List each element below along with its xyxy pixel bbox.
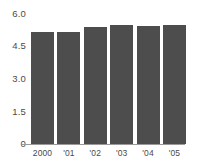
x-axis-tick-label: '05 [163, 148, 186, 158]
plot-area [31, 8, 186, 144]
x-axis-tick-label: '01 [57, 148, 80, 158]
bar-01 [57, 32, 80, 144]
bar-chart: 6.0 4.5 3.0 1.5 0 [0, 0, 203, 165]
y-axis-tick-label: 1.5 [0, 107, 26, 117]
x-axis-line [22, 144, 185, 145]
bar-slot [110, 8, 133, 144]
bar-02 [84, 27, 107, 144]
bar-slot [163, 8, 186, 144]
y-axis-tick-label: 6.0 [0, 9, 26, 19]
bar-slot [84, 8, 107, 144]
y-axis-tick-label: 4.5 [0, 41, 26, 51]
bar-slot [31, 8, 54, 144]
bar-2000 [31, 32, 54, 144]
x-axis-tick-label: '02 [84, 148, 107, 158]
bar-series [31, 8, 186, 144]
bar-slot [57, 8, 80, 144]
x-axis-tick-label: '04 [137, 148, 160, 158]
bar-03 [110, 25, 133, 144]
y-axis-tick-label: 3.0 [0, 74, 26, 84]
x-axis-tick-labels: 2000 '01 '02 '03 '04 '05 [31, 148, 186, 158]
x-axis-tick-label: 2000 [31, 148, 54, 158]
bar-04 [137, 26, 160, 144]
bar-slot [137, 8, 160, 144]
bar-05 [163, 25, 186, 144]
x-axis-tick-label: '03 [110, 148, 133, 158]
